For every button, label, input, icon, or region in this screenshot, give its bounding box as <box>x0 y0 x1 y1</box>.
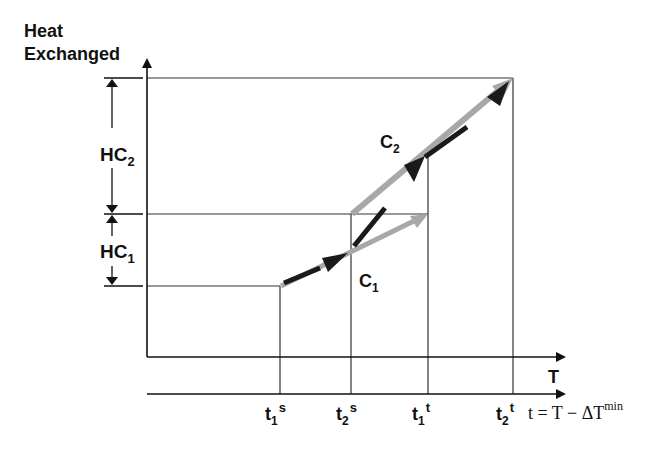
heat-exchange-diagram: Heat Exchanged HC2 HC1 C1 C2 T t1s t2s t… <box>0 0 664 454</box>
hc2-label: HC2 <box>100 144 135 169</box>
curve-c2 <box>352 78 513 214</box>
shifted-axis-formula: t = T − ΔTmin <box>528 399 623 423</box>
tick-t1t: t1t <box>412 400 431 428</box>
tick-t2t: t2t <box>496 400 515 428</box>
c2-label: C2 <box>380 132 400 156</box>
y-axis-title-line2: Exchanged <box>24 44 120 64</box>
labels: Heat Exchanged HC2 HC1 C1 C2 T t1s t2s t… <box>24 21 623 428</box>
tick-t1s: t1s <box>265 400 286 428</box>
x-axis-label-T: T <box>548 367 559 387</box>
y-axis-title-line1: Heat <box>24 21 63 41</box>
axes <box>147 60 564 394</box>
c1-forward-triangle-icon <box>322 253 348 272</box>
c1-label: C1 <box>359 271 379 295</box>
hc1-label: HC1 <box>100 241 135 266</box>
curves <box>281 78 513 286</box>
tick-t2s: t2s <box>336 400 357 428</box>
